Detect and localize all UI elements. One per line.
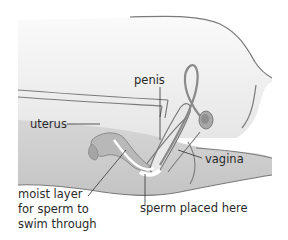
label-vagina: vagina bbox=[205, 152, 244, 166]
label-sperm-placed: sperm placed here bbox=[140, 201, 248, 215]
label-moist-layer-3: swim through bbox=[18, 217, 97, 231]
label-uterus: uterus bbox=[30, 117, 67, 131]
reproduction-diagram: penis uterus vagina moist layer for sper… bbox=[0, 0, 288, 240]
label-moist-layer-1: moist layer bbox=[18, 187, 83, 201]
label-moist-layer-2: for sperm to bbox=[18, 202, 89, 216]
label-penis: penis bbox=[134, 73, 165, 87]
testis-inner bbox=[201, 114, 209, 124]
